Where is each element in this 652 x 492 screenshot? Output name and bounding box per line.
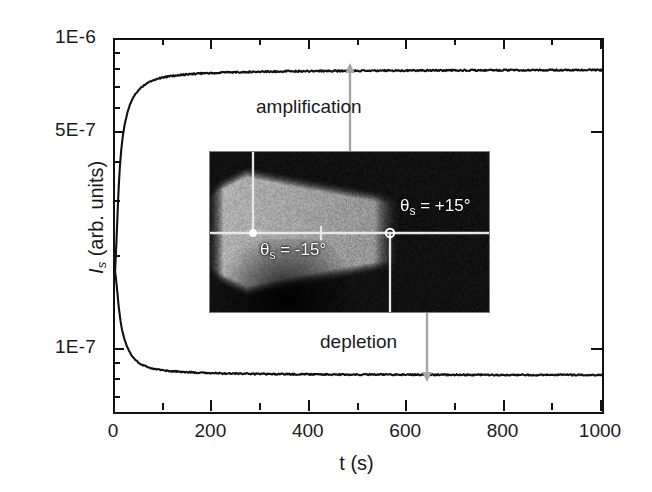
depletion-label: depletion: [320, 331, 397, 353]
x-tick-label: 400: [263, 420, 353, 442]
y-tick-major-right: [591, 348, 602, 350]
x-tick-label: 0: [68, 420, 158, 442]
inset-label-theta-plus: θs = +15°: [400, 196, 470, 218]
y-tick-minor: [113, 255, 120, 257]
y-tick-minor: [113, 68, 120, 70]
x-tick-label: 800: [458, 420, 548, 442]
x-tick-major-top: [308, 38, 310, 49]
x-tick-major: [405, 400, 407, 411]
inset-photograph: θs = -15° θs = +15°: [209, 151, 490, 313]
y-tick-major: [113, 348, 124, 350]
y-tick-minor: [113, 200, 120, 202]
y-tick-minor: [113, 52, 120, 54]
y-axis-units: (arb. units): [85, 161, 107, 262]
y-tick-major-right: [591, 38, 602, 40]
x-tick-minor-top: [162, 38, 164, 45]
x-tick-major: [210, 400, 212, 411]
x-tick-label: 200: [165, 420, 255, 442]
x-tick-major-top: [405, 38, 407, 49]
x-tick-minor: [357, 403, 359, 410]
y-tick-label: 5E-7: [0, 119, 96, 141]
x-tick-major-top: [503, 38, 505, 49]
y-tick-label: 1E-6: [0, 26, 96, 48]
y-tick-minor: [113, 396, 120, 398]
x-tick-minor-top: [357, 38, 359, 45]
y-axis-title: Is (arb. units): [85, 97, 110, 337]
x-tick-label: 1000: [555, 420, 645, 442]
x-tick-minor: [551, 403, 553, 410]
x-tick-minor-top: [259, 38, 261, 45]
x-tick-major: [308, 400, 310, 411]
y-tick-label: 1E-7: [0, 336, 96, 358]
x-tick-minor: [454, 403, 456, 410]
y-tick-minor: [113, 86, 120, 88]
x-tick-minor-top: [454, 38, 456, 45]
y-axis-subscript: s: [94, 262, 109, 269]
x-tick-minor: [259, 403, 261, 410]
x-axis-title: t (s): [113, 452, 600, 475]
y-tick-major-right: [591, 131, 602, 133]
y-tick-minor: [113, 107, 120, 109]
figure-root: 020040060080010001E-65E-71E-7 Is (arb. u…: [0, 0, 652, 492]
y-tick-major: [113, 38, 124, 40]
y-axis-symbol: I: [85, 268, 107, 274]
x-tick-minor-top: [551, 38, 553, 45]
x-tick-label: 600: [360, 420, 450, 442]
x-tick-major: [600, 400, 602, 411]
y-tick-minor: [113, 362, 120, 364]
y-tick-major: [113, 131, 124, 133]
x-tick-major: [503, 400, 505, 411]
x-tick-minor: [162, 403, 164, 410]
amplification-label: amplification: [256, 96, 362, 118]
inset-label-theta-minus: θs = -15°: [260, 240, 326, 262]
x-tick-major: [113, 400, 115, 411]
y-tick-minor: [113, 161, 120, 163]
y-tick-minor: [113, 378, 120, 380]
inset-crosshair-overlay: [210, 152, 490, 313]
x-tick-major-top: [210, 38, 212, 49]
